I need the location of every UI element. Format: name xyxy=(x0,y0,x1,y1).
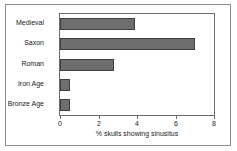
bar-medieval[interactable] xyxy=(60,18,135,30)
bar-iron-age[interactable] xyxy=(60,79,70,91)
bar-row xyxy=(60,79,214,91)
x-tick-label-6: 6 xyxy=(166,119,186,128)
bar-row xyxy=(60,38,214,50)
x-tick-label-2: 2 xyxy=(89,119,109,128)
bar-bronze-age[interactable] xyxy=(60,99,70,111)
bar-saxon[interactable] xyxy=(60,38,195,50)
plot-frame xyxy=(59,13,215,116)
x-tick-label-8: 8 xyxy=(204,119,224,128)
bar-row xyxy=(60,18,214,30)
chart-figure: MedievalSaxonRomanIron AgeBronze Age 024… xyxy=(5,4,231,146)
bar-roman[interactable] xyxy=(60,59,114,71)
x-tick-label-4: 4 xyxy=(127,119,147,128)
x-axis-title: % skulls showing sinusitus xyxy=(59,130,215,137)
x-tick-label-0: 0 xyxy=(50,119,70,128)
category-label-medieval: Medieval xyxy=(0,17,44,29)
bar-row xyxy=(60,99,214,111)
category-label-iron-age: Iron Age xyxy=(0,78,44,90)
category-label-bronze-age: Bronze Age xyxy=(0,98,44,110)
plot-area xyxy=(60,14,214,115)
category-label-saxon: Saxon xyxy=(0,37,44,49)
bar-row xyxy=(60,59,214,71)
category-label-roman: Roman xyxy=(0,58,44,70)
